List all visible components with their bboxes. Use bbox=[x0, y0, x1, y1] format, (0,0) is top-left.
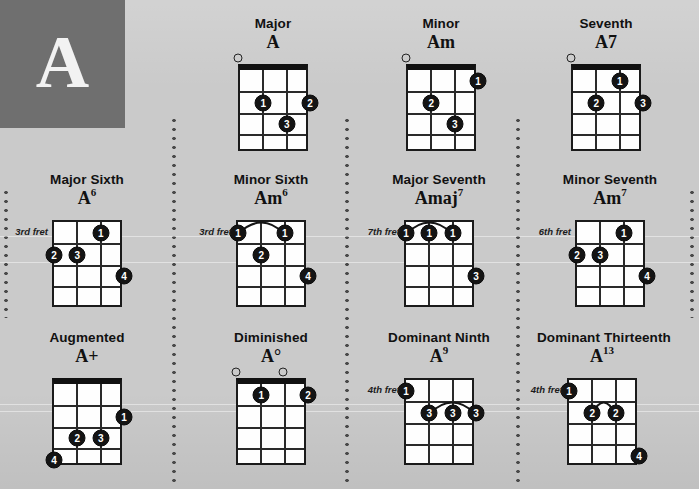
finger-dot[interactable]: 4 bbox=[300, 268, 317, 285]
fret-line bbox=[408, 113, 474, 115]
fretboard-grid[interactable]: 1234 bbox=[575, 220, 645, 307]
finger-dot[interactable]: 3 bbox=[446, 116, 463, 133]
finger-dot[interactable]: 3 bbox=[444, 404, 461, 421]
fretboard-grid[interactable]: 123 bbox=[238, 64, 308, 151]
finger-dot[interactable]: 1 bbox=[615, 224, 632, 241]
finger-dot[interactable]: 2 bbox=[607, 404, 624, 421]
fret-line bbox=[238, 243, 304, 245]
fretboard-grid[interactable]: 1234 bbox=[52, 378, 122, 465]
fretboard-grid[interactable]: 123 bbox=[571, 64, 641, 151]
finger-dot[interactable]: 2 bbox=[253, 246, 270, 263]
chord-name-root: A bbox=[267, 32, 280, 52]
chord-type-label: Minor bbox=[376, 16, 506, 31]
finger-dot[interactable]: 4 bbox=[639, 268, 656, 285]
open-string-marker bbox=[234, 54, 243, 63]
finger-dot[interactable]: 3 bbox=[92, 430, 109, 447]
fretboard-wrap: 1234 bbox=[22, 366, 152, 471]
fret-line bbox=[569, 444, 635, 446]
finger-dot[interactable]: 1 bbox=[398, 224, 415, 241]
chord-name-root: A bbox=[78, 188, 91, 208]
chord-name-label: Am6 bbox=[206, 188, 336, 208]
finger-dot[interactable]: 3 bbox=[421, 404, 438, 421]
chord-name-extension: 6 bbox=[282, 186, 288, 198]
chord-card[interactable]: MajorA123 bbox=[208, 16, 338, 157]
fret-line bbox=[240, 134, 306, 136]
chord-card[interactable]: DiminishedA°12 bbox=[206, 330, 336, 471]
fretboard-grid[interactable]: 1234 bbox=[52, 220, 122, 307]
finger-dot[interactable]: 1 bbox=[276, 224, 293, 241]
fret-line bbox=[406, 243, 472, 245]
column-divider-3 bbox=[4, 188, 8, 318]
chord-name-label: A6 bbox=[22, 188, 152, 208]
fret-line bbox=[54, 286, 120, 288]
finger-dot[interactable]: 1 bbox=[421, 224, 438, 241]
finger-dot[interactable]: 3 bbox=[468, 268, 485, 285]
finger-dot[interactable]: 3 bbox=[69, 246, 86, 263]
fret-line bbox=[238, 448, 304, 450]
finger-dot[interactable]: 2 bbox=[584, 404, 601, 421]
finger-dot[interactable]: 2 bbox=[300, 386, 317, 403]
finger-dot[interactable]: 3 bbox=[592, 246, 609, 263]
string-line bbox=[76, 222, 78, 305]
fretboard-wrap: 12343rd fret bbox=[22, 208, 152, 313]
fretboard-grid[interactable]: 1113 bbox=[404, 220, 474, 307]
finger-dot[interactable]: 1 bbox=[470, 72, 487, 89]
fret-line bbox=[240, 91, 306, 93]
chord-type-label: Augmented bbox=[22, 330, 152, 345]
finger-dot[interactable]: 1 bbox=[253, 386, 270, 403]
fretboard-wrap: 12 bbox=[206, 366, 336, 471]
fret-line bbox=[54, 427, 120, 429]
chord-card[interactable]: SeventhA7123 bbox=[541, 16, 671, 157]
chord-card[interactable]: Major SixthA612343rd fret bbox=[22, 172, 152, 313]
chord-type-label: Dominant Ninth bbox=[374, 330, 504, 345]
finger-dot[interactable]: 1 bbox=[116, 408, 133, 425]
chord-name-label: Am7 bbox=[545, 188, 675, 208]
finger-dot[interactable]: 2 bbox=[423, 94, 440, 111]
chord-name-label: A+ bbox=[22, 346, 152, 366]
chord-card[interactable]: MinorAm123 bbox=[376, 16, 506, 157]
start-fret-label: 7th fret bbox=[368, 225, 400, 236]
fret-line bbox=[573, 113, 639, 115]
finger-dot[interactable]: 2 bbox=[569, 246, 586, 263]
chord-type-label: Minor Sixth bbox=[206, 172, 336, 187]
fret-line bbox=[573, 134, 639, 136]
chord-name-root: Amaj bbox=[415, 188, 458, 208]
fret-line bbox=[406, 286, 472, 288]
chord-card[interactable]: AugmentedA+1234 bbox=[22, 330, 152, 471]
finger-dot[interactable]: 1 bbox=[398, 382, 415, 399]
finger-dot[interactable]: 1 bbox=[561, 382, 578, 399]
fret-line bbox=[238, 265, 304, 267]
chord-card[interactable]: Minor SixthAm611243rd fret bbox=[206, 172, 336, 313]
chord-card[interactable]: Major SeventhAmaj711137th fret bbox=[374, 172, 504, 313]
finger-dot[interactable]: 4 bbox=[631, 448, 648, 465]
finger-dot[interactable]: 1 bbox=[92, 224, 109, 241]
finger-dot[interactable]: 4 bbox=[116, 268, 133, 285]
finger-dot[interactable]: 2 bbox=[588, 94, 605, 111]
start-fret-label: 3rd fret bbox=[15, 225, 48, 236]
finger-dot[interactable]: 4 bbox=[46, 452, 63, 469]
chord-card[interactable]: Dominant NinthA913334th fret bbox=[374, 330, 504, 471]
fretboard-grid[interactable]: 123 bbox=[406, 64, 476, 151]
finger-dot[interactable]: 2 bbox=[302, 94, 319, 111]
string-line bbox=[100, 384, 102, 463]
fretboard-grid[interactable]: 1333 bbox=[404, 378, 474, 465]
finger-dot[interactable]: 3 bbox=[278, 116, 295, 133]
fretboard-grid[interactable]: 1124 bbox=[236, 220, 306, 307]
finger-dot[interactable]: 1 bbox=[255, 94, 272, 111]
finger-dot[interactable]: 1 bbox=[444, 224, 461, 241]
finger-dot[interactable]: 1 bbox=[611, 72, 628, 89]
finger-dot[interactable]: 2 bbox=[46, 246, 63, 263]
fret-line bbox=[54, 243, 120, 245]
finger-dot[interactable]: 3 bbox=[635, 94, 652, 111]
fret-line bbox=[408, 91, 474, 93]
fretboard-grid[interactable]: 1224 bbox=[567, 378, 637, 465]
finger-dot[interactable]: 3 bbox=[468, 404, 485, 421]
fretboard-grid[interactable]: 12 bbox=[236, 378, 306, 465]
key-letter: A bbox=[36, 25, 89, 99]
chord-card[interactable]: Dominant ThirteenthA1312244th fret bbox=[537, 330, 667, 471]
chord-card[interactable]: Minor SeventhAm712346th fret bbox=[545, 172, 675, 313]
column-divider-0 bbox=[172, 116, 176, 188]
fretboard-wrap: 12244th fret bbox=[537, 366, 667, 471]
finger-dot[interactable]: 2 bbox=[69, 430, 86, 447]
fret-line bbox=[238, 405, 304, 407]
